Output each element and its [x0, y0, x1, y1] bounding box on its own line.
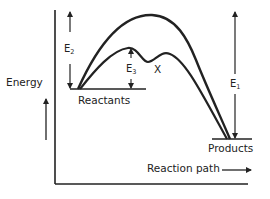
energy-profile-diagram: Energy Reaction path Reactants Products … [0, 0, 270, 199]
products-label: Products [208, 142, 253, 154]
x-axis-label: Reaction path [147, 162, 220, 174]
reactants-label: Reactants [78, 94, 130, 106]
y-axis-label: Energy [6, 76, 43, 88]
intermediate-label: X [154, 63, 161, 75]
uncatalysed-curve [78, 15, 230, 139]
e1-label: E1 [230, 78, 240, 91]
e2-label: E2 [64, 43, 74, 56]
e3-label: E3 [126, 63, 136, 76]
